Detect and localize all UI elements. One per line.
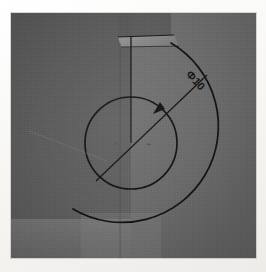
center-mark-left: ▫: [113, 139, 116, 149]
photographed-screen: Φ10 ▫ ⌁: [11, 13, 256, 258]
lower-light-band-2: [81, 213, 161, 258]
page-root: Φ10 ▫ ⌁: [0, 0, 266, 272]
cad-drawing-canvas: Φ10 ▫ ⌁: [11, 13, 256, 258]
center-mark-right: ⌁: [146, 139, 151, 149]
